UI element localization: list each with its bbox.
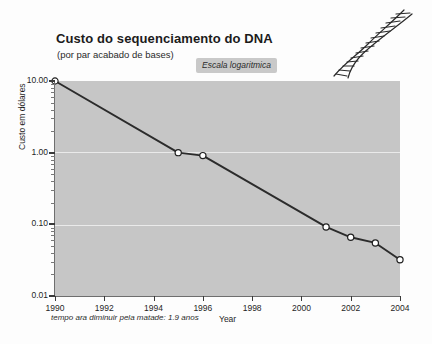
- y-tick-10.00: [49, 80, 55, 82]
- y-tick-minor: [51, 253, 55, 254]
- chart-footnote: tempo ara diminuir pela matade: 1.9 anos: [51, 313, 199, 322]
- data-point: [200, 153, 206, 159]
- page-title: Custo do sequenciamento do DNA: [56, 31, 273, 46]
- log-scale-badge: Escala logaritmica: [196, 58, 277, 73]
- y-tick-minor: [51, 160, 55, 161]
- y-tick-minor: [51, 190, 55, 191]
- y-tick-minor: [51, 203, 55, 204]
- y-tick-minor: [51, 228, 55, 229]
- x-tick-label: 1994: [134, 303, 174, 313]
- y-tick-minor: [51, 231, 55, 232]
- y-axis-title: Custo em dólares: [17, 83, 27, 150]
- x-tick-label: 1996: [183, 303, 223, 313]
- y-tick-minor: [51, 164, 55, 165]
- x-axis-line: [55, 296, 401, 297]
- x-tick-label: 2002: [331, 303, 371, 313]
- y-tick-minor: [51, 110, 55, 111]
- y-tick-1.00: [49, 152, 55, 154]
- y-tick-minor: [51, 103, 55, 104]
- y-tick-0.10: [49, 223, 55, 225]
- y-tick-minor: [51, 235, 55, 236]
- x-tick-2002: [351, 296, 352, 301]
- y-tick-minor: [51, 92, 55, 93]
- y-tick-minor: [51, 84, 55, 85]
- x-tick-1998: [252, 296, 253, 301]
- data-point: [323, 224, 329, 230]
- y-tick-minor: [51, 240, 55, 241]
- y-tick-minor: [51, 169, 55, 170]
- x-tick-2004: [400, 296, 401, 301]
- y-tick-minor: [51, 88, 55, 89]
- plot-area: [55, 81, 400, 296]
- y-tick-minor: [51, 156, 55, 157]
- data-point: [175, 150, 181, 156]
- series-line: [55, 81, 400, 296]
- x-tick-label: 2000: [281, 303, 321, 313]
- x-tick-2000: [301, 296, 302, 301]
- y-tick-minor: [51, 174, 55, 175]
- data-point: [397, 257, 403, 263]
- x-tick-1992: [104, 296, 105, 301]
- x-tick-label: 1990: [35, 303, 75, 313]
- y-tick-minor: [51, 118, 55, 119]
- x-tick-label: 1992: [84, 303, 124, 313]
- y-tick-minor: [51, 262, 55, 263]
- y-tick-minor: [51, 181, 55, 182]
- x-tick-1994: [154, 296, 155, 301]
- data-point: [372, 240, 378, 246]
- y-tick-minor: [51, 97, 55, 98]
- chart-figure: Custo do sequenciamento do DNA (por par …: [0, 0, 432, 344]
- x-tick-1990: [55, 296, 56, 301]
- y-tick-label: 0.10: [2, 218, 48, 228]
- y-tick-minor: [51, 131, 55, 132]
- series-polyline: [55, 81, 400, 260]
- data-point: [348, 234, 354, 240]
- y-axis-line: [54, 81, 55, 297]
- chart-subtitle: (por par acabado de bases): [57, 49, 174, 60]
- y-tick-minor: [51, 274, 55, 275]
- y-tick-label: 0.01: [2, 290, 48, 300]
- dna-helix-icon: [312, 4, 422, 80]
- x-axis-title: Year: [219, 314, 236, 324]
- x-tick-label: 2004: [380, 303, 420, 313]
- y-tick-minor: [51, 246, 55, 247]
- x-tick-1996: [203, 296, 204, 301]
- x-tick-label: 1998: [232, 303, 272, 313]
